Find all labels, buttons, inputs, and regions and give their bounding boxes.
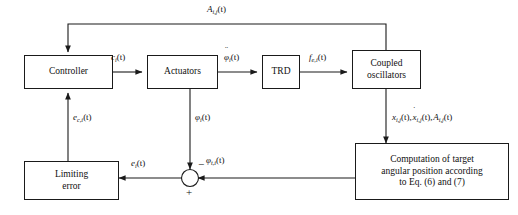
signal-label-feedback-top: Ai,j(t) xyxy=(207,4,226,14)
signal-oscillator-states-3-subscript: i,j xyxy=(439,116,444,123)
signal-error-to-controller-arg: (t) xyxy=(83,112,92,122)
signal-trd-out-arg: (t) xyxy=(318,52,327,62)
block-diagram: Controller Actuators TRD Coupled oscilla… xyxy=(0,0,518,215)
signal-label-error-to-controller: ec,i(t) xyxy=(73,112,92,122)
junction-plus-sign: + xyxy=(186,186,192,198)
block-controller-label: Controller xyxy=(49,66,88,78)
block-coupled-oscillators-line-1: Coupled xyxy=(370,58,402,70)
block-computation-line-1: Computation of target xyxy=(390,154,474,166)
signal-actuator-out-subscript: i xyxy=(229,56,231,63)
signal-oscillator-states-3-symbol: A xyxy=(433,112,439,122)
signal-feedback-top-subscript: i,j xyxy=(213,8,218,15)
signal-controller-out-subscript: i xyxy=(115,56,117,63)
signal-sum-out-arg: (t) xyxy=(137,158,146,168)
signal-actuator-feedback-subscript: i xyxy=(200,116,202,123)
block-coupled-oscillators[interactable]: Coupled oscillators xyxy=(352,50,421,89)
block-actuators[interactable]: Actuators xyxy=(147,55,218,89)
block-computation-line-2: angular position according xyxy=(381,166,482,178)
block-actuators-label: Actuators xyxy=(164,66,201,78)
signal-oscillator-states-3-arg: (t) xyxy=(444,112,453,122)
signal-oscillator-states-1-subscript: i,j xyxy=(396,116,401,123)
signal-feedback-top-arg: (t) xyxy=(218,4,227,14)
signal-trd-out-subscript: e,i xyxy=(312,56,318,63)
signal-oscillator-states-2-arg: (t) xyxy=(422,112,431,122)
signal-label-target-angle: φt,i(t) xyxy=(206,155,225,165)
block-coupled-oscillators-line-2: oscillators xyxy=(367,70,406,82)
block-controller[interactable]: Controller xyxy=(24,55,113,89)
signal-label-actuator-feedback: φi(t) xyxy=(195,112,210,122)
signal-feedback-top-symbol: A xyxy=(207,4,213,14)
signal-oscillator-states-2-subscript: i,j xyxy=(417,116,422,123)
signal-error-to-controller-subscript: c,i xyxy=(77,116,83,123)
signal-actuator-out-arg: (t) xyxy=(231,52,240,62)
block-trd[interactable]: TRD xyxy=(262,55,300,89)
signal-label-controller-out: ci(t) xyxy=(111,52,125,62)
block-computation[interactable]: Computation of target angular position a… xyxy=(355,143,509,200)
signal-label-sum-out: ei(t) xyxy=(131,158,145,168)
signal-label-actuator-out: φi(t) xyxy=(224,52,239,62)
signal-oscillator-states-1-arg: (t) xyxy=(401,112,410,122)
signal-actuator-feedback-arg: (t) xyxy=(202,112,211,122)
block-limiting-error[interactable]: Limiting error xyxy=(24,161,119,200)
block-computation-line-3: to Eq. (6) and (7) xyxy=(399,177,465,189)
signal-label-oscillator-states: xi,j(t), xi,j(t), Ai,j(t) xyxy=(392,112,452,122)
block-trd-label: TRD xyxy=(272,66,291,78)
junction-minus-sign: − xyxy=(198,158,204,170)
signal-target-angle-arg: (t) xyxy=(216,155,225,165)
signal-oscillator-states-2-symbol: x xyxy=(413,112,417,122)
signal-controller-out-arg: (t) xyxy=(117,52,126,62)
block-limiting-error-line-2: error xyxy=(62,181,80,193)
summing-junction-circle xyxy=(182,170,199,187)
signal-label-trd-out: fe,i(t) xyxy=(309,52,326,62)
block-limiting-error-line-1: Limiting xyxy=(55,169,88,181)
signal-sum-out-subscript: i xyxy=(135,162,137,169)
signal-target-angle-subscript: t,i xyxy=(211,159,216,166)
